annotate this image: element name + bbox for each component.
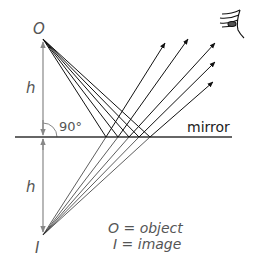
- height-label-bottom: h: [26, 178, 36, 196]
- mirror-label: mirror: [187, 119, 230, 135]
- height-label-top: h: [26, 79, 36, 97]
- right-angle-arc: [43, 123, 57, 137]
- eye-icon: [220, 10, 244, 38]
- object-label: O: [33, 20, 45, 38]
- angle-label: 90°: [59, 119, 82, 134]
- image-label: I: [35, 239, 40, 257]
- legend-object: O = object: [108, 220, 183, 236]
- mirror-reflection-diagram: O h 90° mirror h I O = object I = image: [0, 0, 259, 264]
- legend-image: I = image: [113, 236, 181, 252]
